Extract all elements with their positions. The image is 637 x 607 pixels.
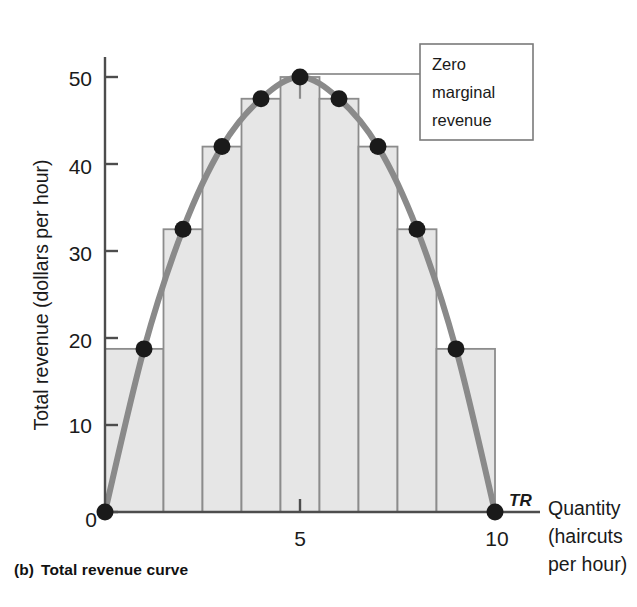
- total-revenue-figure: 0 10 20 30 40 50 5 10 Total revenue (dol…: [0, 0, 637, 607]
- x-axis-title-line2: (haircuts: [548, 525, 623, 547]
- x-axis-title-line1: Quantity: [548, 497, 621, 519]
- data-point-marker: [253, 90, 270, 107]
- data-point-marker: [331, 90, 348, 107]
- data-point-marker: [370, 138, 387, 155]
- data-point-marker: [487, 504, 504, 521]
- x-tick-label-5: 5: [294, 527, 306, 550]
- y-tick-label-10: 10: [69, 414, 92, 437]
- revenue-bar: [281, 77, 320, 512]
- revenue-bar: [105, 349, 164, 512]
- y-axis-title: Total revenue (dollars per hour): [30, 160, 52, 431]
- data-point-marker: [292, 69, 309, 86]
- x-axis-title-line3: per hour): [548, 553, 627, 575]
- revenue-bars: [105, 77, 495, 512]
- tr-curve-label: TR: [509, 491, 532, 510]
- figure-caption-letter: (b): [14, 561, 34, 578]
- data-point-marker: [175, 221, 192, 238]
- y-tick-label-20: 20: [69, 329, 92, 352]
- data-point-marker: [136, 340, 153, 357]
- callout-line-1: Zero: [432, 55, 466, 73]
- y-tick-label-40: 40: [69, 155, 92, 178]
- figure-caption: (b)Total revenue curve: [14, 561, 188, 579]
- revenue-bar: [242, 99, 281, 512]
- data-point-marker: [214, 138, 231, 155]
- revenue-bar: [359, 147, 398, 512]
- callout-line-3: revenue: [432, 111, 492, 129]
- revenue-bar: [320, 99, 359, 512]
- y-tick-label-0: 0: [85, 508, 97, 531]
- callout-line-2: marginal: [432, 83, 495, 101]
- data-point-marker: [448, 340, 465, 357]
- y-tick-label-30: 30: [69, 242, 92, 265]
- revenue-bar: [437, 349, 496, 512]
- x-tick-label-10: 10: [485, 527, 508, 550]
- data-point-marker: [409, 221, 426, 238]
- y-tick-label-50: 50: [69, 67, 92, 90]
- data-point-marker: [97, 504, 114, 521]
- chart-canvas: 0 10 20 30 40 50 5 10 Total revenue (dol…: [0, 0, 637, 607]
- revenue-bar: [203, 147, 242, 512]
- figure-caption-text: Total revenue curve: [41, 561, 188, 578]
